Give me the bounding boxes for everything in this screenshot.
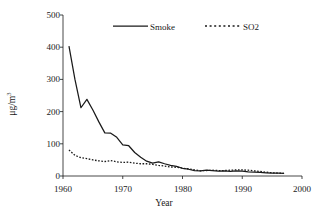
- data-series-layer: [69, 46, 284, 173]
- plot-area: [0, 0, 328, 221]
- series-line-so2: [69, 150, 284, 174]
- axis-lines: [60, 15, 302, 179]
- chart-container: μg/m3 500 400 300 200 100 0 1960 1970 19…: [0, 0, 328, 221]
- series-line-smoke: [69, 46, 284, 173]
